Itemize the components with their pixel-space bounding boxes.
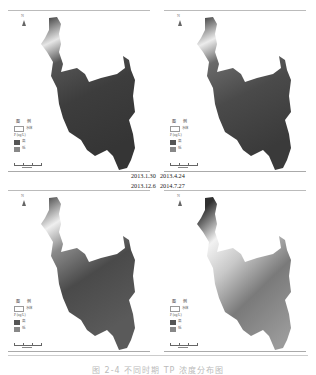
scale-bar xyxy=(14,342,42,348)
legend-title: 图 例 xyxy=(16,300,54,304)
panel-bottom-rule xyxy=(164,171,306,172)
value-label: P (ug/L) xyxy=(170,314,182,318)
map-panel-2: N 图 例 水体 P (ug/L) 高 低 xyxy=(158,2,310,172)
scale-bar xyxy=(170,342,198,348)
value-label: P (ug/L) xyxy=(14,134,26,138)
water-label: 水体 xyxy=(26,307,32,311)
date-label-2: 2013.4.24 xyxy=(160,172,185,179)
low-label: 低 xyxy=(22,327,25,331)
map-legend: 图 例 水体 P (ug/L) 高 低 xyxy=(170,300,210,332)
map-panel-3: N 图 例 水体 P (ug/L) 高 低 xyxy=(2,182,154,352)
concentration-map xyxy=(193,16,293,176)
high-swatch xyxy=(14,140,20,145)
high-label: 高 xyxy=(178,140,181,144)
water-label: 水体 xyxy=(26,127,32,131)
legend-title: 图 例 xyxy=(172,300,210,304)
map-legend: 图 例 水体 P (ug/L) 高 低 xyxy=(14,120,54,152)
north-arrow-icon: N xyxy=(20,200,26,212)
panel-top-rule xyxy=(164,10,306,11)
value-label: P (ug/L) xyxy=(170,134,182,138)
low-swatch xyxy=(170,147,176,152)
high-label: 高 xyxy=(22,320,25,324)
low-swatch xyxy=(14,147,20,152)
water-swatch xyxy=(14,126,24,132)
concentration-map xyxy=(37,16,137,176)
legend-title: 图 例 xyxy=(172,120,210,124)
water-swatch xyxy=(170,306,180,312)
map-legend: 图 例 水体 P (ug/L) 高 低 xyxy=(14,300,54,332)
date-label-1: 2013.1.30 xyxy=(131,172,156,179)
figure-separator xyxy=(8,355,308,356)
legend-title: 图 例 xyxy=(16,120,54,124)
map-panel-4: N 图 例 水体 P (ug/L) 高 低 xyxy=(158,182,310,352)
concentration-map xyxy=(193,196,293,356)
value-label: P (ug/L) xyxy=(14,314,26,318)
high-swatch xyxy=(170,140,176,145)
north-arrow-icon: N xyxy=(176,20,182,32)
low-label: 低 xyxy=(178,147,181,151)
scale-bar xyxy=(14,162,42,168)
high-label: 高 xyxy=(178,320,181,324)
panel-bottom-rule xyxy=(8,171,150,172)
low-label: 低 xyxy=(178,327,181,331)
figure-caption: 图 2-4 不同时期 TP 浓度分布图 xyxy=(0,364,316,375)
low-label: 低 xyxy=(22,147,25,151)
water-swatch xyxy=(170,126,180,132)
scale-bar xyxy=(170,162,198,168)
high-label: 高 xyxy=(22,140,25,144)
panel-top-rule xyxy=(8,190,150,191)
high-swatch xyxy=(14,320,20,325)
low-swatch xyxy=(170,327,176,332)
panel-bottom-rule xyxy=(164,351,306,352)
water-label: 水体 xyxy=(182,127,188,131)
water-label: 水体 xyxy=(182,307,188,311)
north-arrow-icon: N xyxy=(20,20,26,32)
concentration-map xyxy=(37,196,137,356)
low-swatch xyxy=(14,327,20,332)
panel-bottom-rule xyxy=(8,351,150,352)
water-swatch xyxy=(14,306,24,312)
panel-top-rule xyxy=(8,10,150,11)
map-legend: 图 例 水体 P (ug/L) 高 低 xyxy=(170,120,210,152)
panel-top-rule xyxy=(164,190,306,191)
north-arrow-icon: N xyxy=(176,200,182,212)
map-panel-1: N 图 例 水体 P (ug/L) 高 低 xyxy=(2,2,154,172)
high-swatch xyxy=(170,320,176,325)
